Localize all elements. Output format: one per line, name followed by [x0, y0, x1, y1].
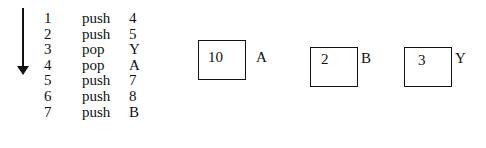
operation-command: push — [82, 89, 110, 105]
step-number: 3 — [44, 42, 52, 58]
operation-argument: A — [129, 58, 140, 74]
variable-box-b: 2 — [310, 47, 358, 87]
operation-argument: 7 — [129, 73, 137, 89]
operation-command: push — [82, 11, 110, 27]
step-number: 4 — [44, 58, 52, 74]
operation-argument: B — [129, 105, 139, 121]
variable-box-a: 10 — [198, 40, 246, 80]
step-number: 2 — [44, 27, 52, 43]
step-number: 1 — [44, 11, 52, 27]
variable-label-b: B — [361, 51, 371, 66]
operation-argument: Y — [129, 42, 140, 58]
variable-label-y: Y — [455, 51, 466, 66]
variable-value: 10 — [208, 50, 223, 65]
variable-box-y: 3 — [404, 47, 452, 87]
operation-command: push — [82, 105, 110, 121]
step-number: 7 — [44, 105, 52, 121]
variable-value: 2 — [321, 52, 329, 67]
step-number: 5 — [44, 73, 52, 89]
down-arrow-icon — [17, 66, 29, 75]
step-number: 6 — [44, 89, 52, 105]
arrow-shaft — [22, 8, 24, 68]
operation-command: push — [82, 27, 110, 43]
operation-command: pop — [82, 58, 105, 74]
variable-label-a: A — [256, 50, 267, 65]
operation-command: push — [82, 73, 110, 89]
operation-command: pop — [82, 42, 105, 58]
operation-argument: 5 — [129, 27, 137, 43]
operation-argument: 8 — [129, 89, 137, 105]
operation-argument: 4 — [129, 11, 137, 27]
variable-value: 3 — [418, 53, 426, 68]
